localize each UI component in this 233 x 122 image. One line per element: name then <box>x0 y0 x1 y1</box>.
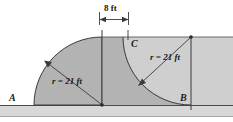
label-dimension-top: 8 ft <box>104 3 117 13</box>
dimension-arrow-left <box>100 17 107 22</box>
ground-band <box>0 105 233 117</box>
geometry-drawing <box>0 0 233 122</box>
figure-canvas: A B C r = 21 ft r = 21 ft 8 ft <box>0 0 233 122</box>
left-quarter-disc <box>34 37 102 105</box>
right-center-dot <box>189 35 193 39</box>
left-center-dot <box>100 103 104 107</box>
label-point-c: C <box>131 38 138 49</box>
dimension-arrow-right <box>122 17 129 22</box>
light-background-block-right <box>191 37 233 105</box>
label-point-b: B <box>180 92 187 103</box>
label-radius-right: r = 21 ft <box>150 52 180 62</box>
label-radius-left: r = 21 ft <box>52 76 82 86</box>
label-point-a: A <box>9 92 16 103</box>
